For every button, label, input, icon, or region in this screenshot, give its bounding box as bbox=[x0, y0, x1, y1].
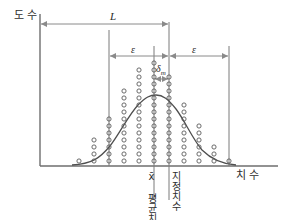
guide-label-nominal: 지정치수 bbox=[170, 171, 180, 211]
dimension-label-epsilon-left: ε bbox=[131, 45, 135, 55]
figure-canvas: 도 수 치 수 L ε ε δm x̄ 평균치 지정치수 bbox=[0, 0, 284, 220]
marker-column bbox=[182, 103, 186, 163]
axis-group bbox=[40, 14, 278, 166]
guide-label-mean: x̄ 평균치 bbox=[146, 171, 156, 220]
x-axis-label: 치 수 bbox=[236, 170, 260, 181]
dimension-label-epsilon-right: ε bbox=[192, 45, 196, 55]
distribution-diagram bbox=[0, 0, 284, 220]
guide-lines bbox=[109, 22, 229, 200]
dimension-label-L: L bbox=[110, 11, 116, 22]
delta-subscript: m bbox=[161, 69, 166, 77]
y-axis-label: 도 수 bbox=[14, 10, 38, 21]
marker-column bbox=[92, 138, 96, 163]
marker-column bbox=[77, 159, 81, 163]
marker-column bbox=[137, 68, 141, 163]
dimension-label-delta-m: δm bbox=[156, 64, 166, 77]
